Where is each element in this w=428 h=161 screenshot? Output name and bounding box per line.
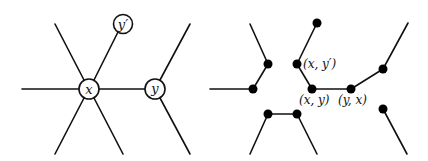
vertex-x-yprime: [293, 60, 302, 69]
edge-y-lower-right: [160, 98, 190, 154]
edge-x-lower-right: [94, 98, 123, 154]
edge-r-yx-e: [351, 69, 383, 89]
right-graph: (x, y′) (x, y) (y, x): [210, 19, 408, 155]
vertex-a: [264, 60, 273, 69]
edge-r-e-up: [383, 23, 408, 69]
edge-r-bottom-left-down: [250, 114, 268, 154]
node-x: x: [79, 79, 99, 99]
node-yprime: y′: [114, 15, 133, 34]
edge-x-lower-left: [55, 98, 84, 154]
node-yprime-label: y′: [117, 17, 128, 32]
edge-r-bottom-right-down: [297, 114, 317, 154]
node-x-label: x: [85, 82, 93, 97]
vertex-bottom-right: [293, 110, 302, 119]
edge-x-upper-left: [55, 24, 84, 80]
vertex-e: [379, 65, 388, 74]
edge-r-lone-down: [383, 109, 407, 154]
vertex-bottom-left: [264, 110, 273, 119]
edge-r-a-up: [250, 24, 268, 64]
edge-x-yprime: [94, 32, 118, 80]
edge-y-upper-right: [160, 24, 190, 80]
label-y-x: (y, x): [338, 93, 367, 107]
diagram-canvas: x y y′: [0, 0, 428, 161]
left-graph: x y y′: [22, 15, 190, 155]
vertex-lone: [379, 105, 388, 114]
vertex-b: [249, 85, 258, 94]
label-x-y: (x, y): [299, 93, 330, 107]
label-x-yprime: (x, y′): [303, 57, 337, 71]
vertex-d: [313, 19, 322, 28]
node-y-label: y: [150, 81, 159, 96]
node-y: y: [145, 79, 165, 99]
